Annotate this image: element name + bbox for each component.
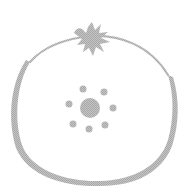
seed-dot	[66, 101, 73, 108]
seed-dot	[70, 121, 77, 128]
fruit-icon	[0, 0, 189, 190]
fruit-outline-body	[11, 60, 178, 186]
center-dot	[80, 98, 100, 118]
fruit-stem-icon	[74, 22, 110, 56]
seed-dot	[101, 89, 108, 96]
seed-dot	[102, 122, 109, 129]
seed-dot	[110, 105, 117, 112]
seed-dot	[80, 86, 87, 93]
seed-dot	[86, 126, 93, 133]
fruit-illustration	[0, 0, 189, 190]
